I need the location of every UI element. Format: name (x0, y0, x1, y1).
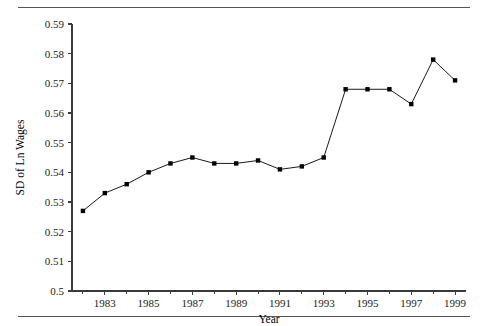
data-point-marker (365, 87, 369, 91)
data-point-marker (190, 155, 194, 159)
x-tick-label: 1985 (138, 297, 161, 309)
y-tick-label: 0.56 (45, 107, 65, 119)
data-point-marker (234, 161, 238, 165)
x-tick-label: 1993 (313, 297, 336, 309)
y-axis-ticks (68, 24, 72, 291)
data-point-marker (387, 87, 391, 91)
y-axis-title: SD of Ln Wages (14, 119, 27, 195)
x-tick-label: 1999 (444, 297, 467, 309)
y-tick-label: 0.53 (45, 196, 65, 208)
data-point-marker (81, 209, 85, 213)
y-tick-label: 0.57 (45, 77, 65, 89)
x-axis-title: Year (258, 313, 279, 325)
y-tick-label: 0.51 (45, 255, 64, 267)
y-tick-label: 0.54 (45, 166, 65, 178)
x-tick-label: 1989 (225, 297, 248, 309)
x-tick-label: 1997 (400, 297, 423, 309)
series-line-sd-ln-wages (83, 60, 455, 211)
line-chart: 0.50.510.520.530.540.550.560.570.580.59 … (0, 0, 488, 326)
data-point-marker (409, 102, 413, 106)
data-point-marker (278, 167, 282, 171)
data-point-marker (256, 158, 260, 162)
data-point-marker (168, 161, 172, 165)
x-tick-label: 1983 (94, 297, 117, 309)
x-tick-label: 1991 (269, 297, 291, 309)
y-axis-tick-labels: 0.50.510.520.530.540.550.560.570.580.59 (45, 18, 65, 297)
data-point-marker (453, 78, 457, 82)
y-tick-label: 0.58 (45, 48, 65, 60)
series-markers (81, 57, 458, 213)
data-point-marker (431, 57, 435, 61)
data-point-marker (125, 182, 129, 186)
x-axis-major-ticks (105, 291, 455, 295)
x-axis-tick-labels: 198319851987198919911993199519971999 (94, 297, 467, 309)
data-point-marker (300, 164, 304, 168)
data-point-marker (322, 155, 326, 159)
x-tick-label: 1987 (181, 297, 204, 309)
y-tick-label: 0.5 (50, 285, 64, 297)
y-tick-label: 0.52 (45, 226, 64, 238)
data-point-marker (343, 87, 347, 91)
figure-container: 0.50.510.520.530.540.550.560.570.580.59 … (0, 0, 488, 326)
x-tick-label: 1995 (357, 297, 380, 309)
data-point-marker (103, 191, 107, 195)
data-point-marker (146, 170, 150, 174)
y-tick-label: 0.55 (45, 137, 65, 149)
y-tick-label: 0.59 (45, 18, 65, 30)
data-point-marker (212, 161, 216, 165)
